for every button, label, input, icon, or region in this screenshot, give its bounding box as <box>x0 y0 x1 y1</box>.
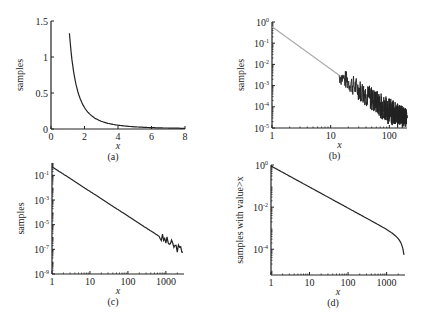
tick-label: 10 <box>326 130 336 141</box>
tick-label: 1 <box>50 276 55 287</box>
tick-label: 0 <box>49 131 54 142</box>
tick-label: 10-1 <box>34 170 49 181</box>
figure: 0246800.511.5xsamples(a)11010010010-110-… <box>0 0 422 316</box>
tick-label: 10-9 <box>34 269 49 280</box>
y-axis-label: samples <box>235 59 246 91</box>
chart-panel-a: 0246800.511.5xsamples(a) <box>14 16 188 164</box>
panel-label: (b) <box>329 150 341 162</box>
chart-panel-b: 11010010010-110-210-310-410-5xsamples(b) <box>235 17 407 163</box>
y-axis-label: samples <box>14 59 25 91</box>
tick-label: 1.5 <box>36 16 49 27</box>
tick-label: 1000 <box>377 277 397 288</box>
tick-label: 0.5 <box>36 88 49 99</box>
x-axis-label: x <box>115 140 121 151</box>
data-line <box>52 167 183 252</box>
tick-label: 10-7 <box>34 244 49 255</box>
tick-label: 10 <box>85 276 95 287</box>
tick-label: 6 <box>149 131 154 142</box>
tick-label: 10-5 <box>254 123 269 134</box>
tick-label: 10-3 <box>254 80 269 91</box>
y-axis-label: samples with value>x <box>234 176 245 263</box>
tick-label: 10-4 <box>253 244 268 255</box>
tick-label: 1 <box>269 277 274 288</box>
tick-label: 10-3 <box>34 195 49 206</box>
tick-label: 10-2 <box>253 202 268 213</box>
tick-label: 100 <box>256 17 269 28</box>
tick-label: 100 <box>120 276 135 287</box>
tick-label: 8 <box>183 131 188 142</box>
chart-panel-c: 110100100010-110-310-510-710-9xsamples(c… <box>15 163 184 308</box>
tick-label: 100 <box>382 130 397 141</box>
tick-label: 10-5 <box>34 219 49 230</box>
tick-label: 10-1 <box>254 38 269 49</box>
tick-label: 1000 <box>156 276 176 287</box>
tick-label: 2 <box>82 131 87 142</box>
data-line-clean <box>272 27 348 82</box>
x-axis-label: x <box>115 285 121 296</box>
tick-label: 1 <box>43 52 48 63</box>
tick-label: 10-4 <box>254 101 269 112</box>
panel-label: (d) <box>327 297 339 309</box>
tick-label: 100 <box>341 277 356 288</box>
tick-label: 100 <box>255 160 268 171</box>
tick-label: 0 <box>43 124 48 135</box>
panel-label: (c) <box>107 296 118 308</box>
data-line <box>69 33 185 128</box>
tick-label: 10-2 <box>254 59 269 70</box>
y-axis-label: samples <box>15 202 26 234</box>
tick-label: 10 <box>305 277 315 288</box>
data-line <box>271 166 404 255</box>
data-line <box>339 71 407 127</box>
panel-label: (a) <box>107 151 118 163</box>
x-axis-label: x <box>336 139 342 150</box>
tick-label: 1 <box>270 130 275 141</box>
x-axis-label: x <box>335 286 341 297</box>
chart-panel-d: 110100100010010-210-4xsamples with value… <box>234 160 405 310</box>
